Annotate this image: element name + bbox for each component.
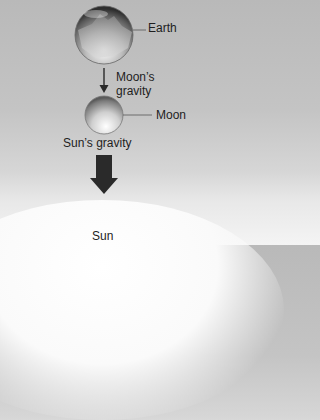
sun-label: Sun — [92, 230, 113, 243]
earth-sphere — [75, 6, 133, 64]
earth-moon-sun-gravity-diagram: Earth Moon’s gravity Moon Sun’s gravity … — [0, 0, 204, 245]
sun-gravity-arrow — [90, 155, 118, 194]
earth-label: Earth — [148, 22, 177, 35]
moon-gravity-label-line2: gravity — [116, 85, 151, 98]
moon-gravity-label-line1: Moon’s — [116, 71, 154, 84]
diagram-graphics — [0, 0, 204, 245]
sun-gravity-label: Sun’s gravity — [63, 137, 131, 150]
moon-gravity-arrow — [100, 68, 109, 93]
moon-sphere — [85, 96, 123, 134]
moon-label: Moon — [156, 109, 186, 122]
